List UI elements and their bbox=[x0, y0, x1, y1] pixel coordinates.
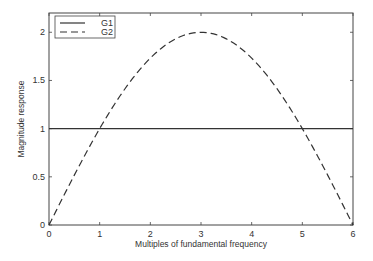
y-tick-label: 2 bbox=[40, 27, 45, 37]
x-tick-label: 3 bbox=[198, 229, 203, 239]
chart: 012345600.511.52 G1G2 Multiples of funda… bbox=[0, 0, 373, 261]
x-tick-label: 6 bbox=[350, 229, 355, 239]
y-tick-label: 0.5 bbox=[32, 172, 45, 182]
plot-area bbox=[49, 13, 353, 225]
y-tick-label: 1 bbox=[40, 124, 45, 134]
x-tick-label: 2 bbox=[148, 229, 153, 239]
x-tick-label: 4 bbox=[249, 229, 254, 239]
x-tick-label: 1 bbox=[97, 229, 102, 239]
x-tick-label: 0 bbox=[46, 229, 51, 239]
plot-frame bbox=[49, 13, 353, 225]
x-axis-label: Multiples of fundamental frequency bbox=[135, 239, 268, 249]
legend: G1G2 bbox=[55, 16, 115, 38]
x-tick-label: 5 bbox=[300, 229, 305, 239]
y-axis-label: Magnitude response bbox=[16, 80, 26, 157]
axis-ticks: 012345600.511.52 bbox=[32, 13, 355, 239]
y-tick-label: 1.5 bbox=[32, 75, 45, 85]
data-series bbox=[49, 32, 353, 225]
legend-label-g2: G2 bbox=[101, 27, 113, 37]
y-tick-label: 0 bbox=[40, 220, 45, 230]
